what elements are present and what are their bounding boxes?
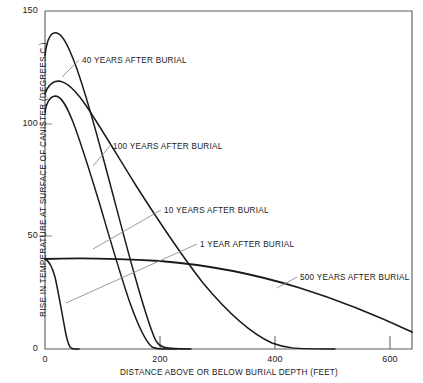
series-line-500-years (45, 258, 412, 332)
y-tick-label-150: 150 (8, 5, 38, 15)
series-line-40-years (45, 33, 191, 349)
y-tick-label-0: 0 (8, 343, 38, 353)
series-line-1-year (45, 259, 79, 349)
y-tick-label-100: 100 (8, 118, 38, 128)
leader-line-1-year (66, 244, 197, 303)
x-tick-marks (160, 336, 390, 349)
series-line-10-years (45, 96, 177, 349)
x-tick-label-400: 400 (261, 354, 289, 364)
temperature-rise-chart: 150 100 50 0 0 200 400 600 RISE IN TEMPE… (0, 0, 423, 383)
chart-plot-area (0, 0, 423, 383)
series-label-500-years: 500 YEARS AFTER BURIAL (300, 273, 410, 282)
annotation-leader-lines (62, 60, 297, 303)
series-line-100-years (45, 81, 335, 349)
series-label-100-years: 100 YEARS AFTER BURIAL (113, 142, 223, 151)
x-tick-label-0: 0 (33, 354, 57, 364)
series-label-40-years: 40 YEARS AFTER BURIAL (82, 56, 187, 65)
series-label-10-years: 10 YEARS AFTER BURIAL (164, 206, 269, 215)
y-axis-title: RISE IN TEMPERATURE AT SURFACE OF CANIST… (39, 30, 48, 330)
x-tick-label-200: 200 (146, 354, 174, 364)
x-tick-label-600: 600 (376, 354, 404, 364)
x-axis-title: DISTANCE ABOVE OR BELOW BURIAL DEPTH (FE… (45, 368, 413, 377)
y-tick-label-50: 50 (8, 230, 38, 240)
series-label-1-year: 1 YEAR AFTER BURIAL (200, 240, 294, 249)
